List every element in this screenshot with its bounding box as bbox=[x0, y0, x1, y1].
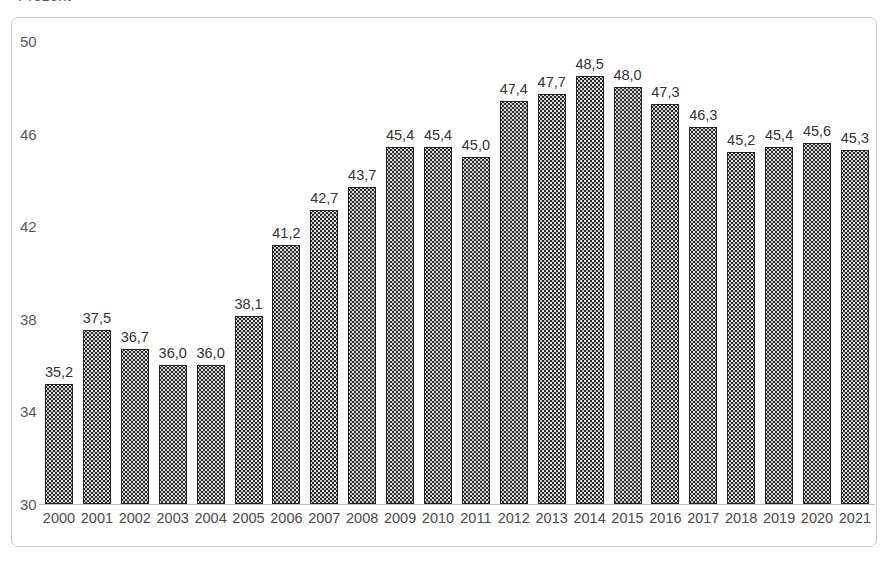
chart-card: 303438424650 35,237,536,736,036,038,141,… bbox=[11, 17, 877, 547]
bar[interactable] bbox=[45, 384, 73, 504]
bar-value-label: 36,0 bbox=[196, 345, 224, 361]
bar-value-label: 36,0 bbox=[159, 345, 187, 361]
x-axis-tick-label: 2009 bbox=[384, 510, 416, 526]
x-axis-tick-label: 2016 bbox=[649, 510, 681, 526]
x-axis-tick-label: 2021 bbox=[839, 510, 871, 526]
bar-value-label: 47,4 bbox=[500, 81, 528, 97]
bar[interactable] bbox=[348, 187, 376, 504]
bar-value-label: 37,5 bbox=[83, 310, 111, 326]
bar-value-label: 42,7 bbox=[310, 190, 338, 206]
x-axis-tick-label: 2012 bbox=[498, 510, 530, 526]
bar-value-label: 45,4 bbox=[424, 127, 452, 143]
bar[interactable] bbox=[159, 365, 187, 504]
bar[interactable] bbox=[841, 150, 869, 504]
bar-value-label: 38,1 bbox=[234, 296, 262, 312]
bar[interactable] bbox=[614, 87, 642, 504]
x-axis-tick-label: 2010 bbox=[422, 510, 454, 526]
bar[interactable] bbox=[197, 365, 225, 504]
bar-value-label: 45,6 bbox=[803, 123, 831, 139]
bar[interactable] bbox=[727, 152, 755, 504]
bar[interactable] bbox=[310, 210, 338, 504]
x-axis-tick-label: 2004 bbox=[194, 510, 226, 526]
bar-value-label: 45,4 bbox=[765, 127, 793, 143]
y-axis-tick-label: 38 bbox=[20, 310, 62, 327]
bar-value-label: 48,5 bbox=[575, 56, 603, 72]
x-axis-tick-label: 2017 bbox=[687, 510, 719, 526]
clipped-header-text: Prozent bbox=[0, 0, 893, 3]
bar-value-label: 45,2 bbox=[727, 132, 755, 148]
x-axis-tick-label: 2011 bbox=[460, 510, 491, 526]
bar-value-label: 41,2 bbox=[272, 225, 300, 241]
x-axis-tick-label: 2005 bbox=[232, 510, 264, 526]
bar[interactable] bbox=[83, 330, 111, 504]
bar[interactable] bbox=[538, 94, 566, 504]
bar[interactable] bbox=[576, 76, 604, 504]
bar[interactable] bbox=[651, 104, 679, 504]
y-axis-tick-label: 42 bbox=[20, 218, 62, 235]
x-axis-tick-label: 2001 bbox=[81, 510, 113, 526]
bar-value-label: 36,7 bbox=[121, 329, 149, 345]
bar[interactable] bbox=[424, 147, 452, 504]
bar-value-label: 45,3 bbox=[841, 130, 869, 146]
x-axis-tick-label: 2008 bbox=[346, 510, 378, 526]
bar-value-label: 45,0 bbox=[462, 137, 490, 153]
bar-value-label: 46,3 bbox=[689, 107, 717, 123]
x-axis-tick-label: 2019 bbox=[763, 510, 795, 526]
bar[interactable] bbox=[386, 147, 414, 504]
bar-value-label: 48,0 bbox=[613, 67, 641, 83]
bar[interactable] bbox=[272, 245, 300, 504]
x-axis-tick-label: 2020 bbox=[801, 510, 833, 526]
bar[interactable] bbox=[689, 127, 717, 504]
bar-value-label: 47,3 bbox=[651, 84, 679, 100]
y-axis-tick-label: 50 bbox=[20, 33, 62, 50]
bar[interactable] bbox=[765, 147, 793, 504]
x-axis-tick-label: 2006 bbox=[270, 510, 302, 526]
x-axis-tick-label: 2007 bbox=[308, 510, 340, 526]
x-axis-tick-label: 2015 bbox=[611, 510, 643, 526]
plot-area: 303438424650 35,237,536,736,036,038,141,… bbox=[12, 18, 876, 546]
x-axis-tick-label: 2003 bbox=[157, 510, 189, 526]
bar-value-label: 45,4 bbox=[386, 127, 414, 143]
bar[interactable] bbox=[803, 143, 831, 504]
bar[interactable] bbox=[121, 349, 149, 504]
bar[interactable] bbox=[500, 101, 528, 504]
bar-value-label: 35,2 bbox=[45, 364, 73, 380]
x-axis-line bbox=[39, 504, 875, 505]
x-axis-tick-label: 2000 bbox=[43, 510, 75, 526]
x-axis-tick-label: 2018 bbox=[725, 510, 757, 526]
x-axis-tick-label: 2014 bbox=[573, 510, 605, 526]
bar[interactable] bbox=[235, 316, 263, 504]
bar-value-label: 47,7 bbox=[538, 74, 566, 90]
x-axis-tick-label: 2013 bbox=[536, 510, 568, 526]
bar[interactable] bbox=[462, 157, 490, 504]
bar-value-label: 43,7 bbox=[348, 167, 376, 183]
x-axis-tick-label: 2002 bbox=[119, 510, 151, 526]
y-axis-tick-label: 46 bbox=[20, 125, 62, 142]
